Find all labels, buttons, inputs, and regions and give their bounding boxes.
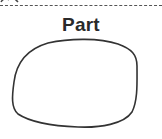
part-blob-shape: [0, 0, 162, 139]
